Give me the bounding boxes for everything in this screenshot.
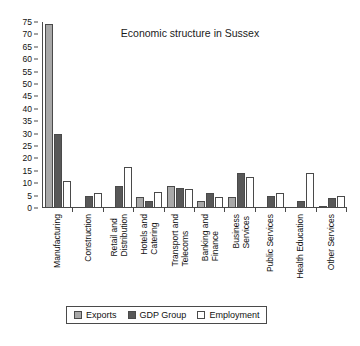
- legend-item-exports: Exports: [74, 310, 117, 320]
- x-axis-label-line1: Manufacturing: [52, 214, 62, 268]
- bar-employment: [215, 197, 223, 208]
- bar-gdp: [176, 188, 184, 208]
- bar-group: [165, 22, 195, 208]
- y-axis-tick-label: 70: [23, 30, 32, 39]
- bar-group: [225, 22, 255, 208]
- x-axis-label-cell: Construction: [73, 214, 103, 300]
- x-axis-label-cell: Public Services: [256, 214, 286, 300]
- x-axis-label-line1: Business: [230, 214, 240, 249]
- y-axis-tick-mark: [34, 170, 38, 171]
- y-axis-tick-mark: [34, 108, 38, 109]
- x-axis-category-label: Manufacturing: [53, 214, 63, 268]
- y-axis-tick-mark: [34, 146, 38, 147]
- x-axis-label-line1: Transport and: [169, 214, 179, 267]
- x-axis-label-line2: Catering: [149, 214, 159, 255]
- x-axis-label-cell: Hotels andCatering: [134, 214, 164, 300]
- y-axis-tick-mark: [34, 22, 38, 23]
- legend-swatch-exports: [74, 311, 82, 319]
- chart-legend: ExportsGDP GroupEmployment: [66, 306, 267, 324]
- y-axis-tick-mark: [34, 59, 38, 60]
- y-axis-tick-label: 20: [23, 154, 32, 163]
- y-axis-tick-mark: [34, 158, 38, 159]
- x-axis-label-cell: Banking andFinance: [195, 214, 225, 300]
- x-axis-category-label: Public Services: [266, 214, 276, 272]
- x-axis-category-label: Banking andFinance: [201, 214, 220, 261]
- y-axis-tick-label: 75: [23, 18, 32, 27]
- x-axis-category-label: Transport andTelecoms: [170, 214, 189, 267]
- x-axis-label-line2: Telecoms: [180, 214, 190, 267]
- bar-employment: [276, 193, 284, 208]
- y-axis-tick-mark: [34, 121, 38, 122]
- bar-group: [195, 22, 225, 208]
- x-axis-category-label: Construction: [84, 214, 94, 262]
- y-axis-tick-label: 30: [23, 129, 32, 138]
- y-axis-tick-label: 10: [23, 179, 32, 188]
- y-axis-tick-label: 5: [27, 191, 32, 200]
- bar-gdp: [115, 186, 123, 208]
- y-axis-tick-label: 60: [23, 55, 32, 64]
- y-axis: 051015202530354045505560657075: [0, 22, 38, 208]
- x-axis-label-line1: Public Services: [265, 214, 275, 272]
- bar-group: [134, 22, 164, 208]
- x-axis-category-label: Hotels andCatering: [140, 214, 159, 255]
- y-axis-tick-mark: [34, 46, 38, 47]
- x-axis-tick-mark: [104, 208, 134, 213]
- x-axis-label-cell: Manufacturing: [43, 214, 73, 300]
- bar-group: [286, 22, 316, 208]
- bar-exports: [45, 24, 53, 208]
- y-axis-tick-label: 25: [23, 142, 32, 151]
- bar-group: [256, 22, 286, 208]
- x-axis-tick-mark: [165, 208, 195, 213]
- bar-employment: [246, 177, 254, 208]
- y-axis-tick-mark: [34, 84, 38, 85]
- y-axis-tick-label: 35: [23, 117, 32, 126]
- y-axis-tick-label: 50: [23, 80, 32, 89]
- x-axis-category-label: Health Education: [297, 214, 307, 279]
- y-axis-tick-mark: [34, 208, 38, 209]
- bar-employment: [306, 173, 314, 208]
- y-axis-tick-label: 0: [27, 204, 32, 213]
- y-axis-tick-mark: [34, 133, 38, 134]
- x-axis-label-line2: Distribution: [119, 214, 129, 257]
- x-axis-label-cell: Other Services: [317, 214, 347, 300]
- legend-swatch-employment: [197, 311, 205, 319]
- legend-label: Exports: [86, 310, 117, 320]
- x-axis-labels: ManufacturingConstructionRetail andDistr…: [43, 214, 347, 300]
- bar-gdp: [267, 196, 275, 208]
- bar-gdp: [85, 196, 93, 208]
- bar-employment: [124, 167, 132, 208]
- x-axis-label-line2: Finance: [210, 214, 220, 261]
- bar-chart: Economic structure in Sussex 05101520253…: [0, 0, 360, 346]
- x-axis-label-line1: Hotels and: [139, 214, 149, 255]
- x-axis-category-label: BusinessServices: [231, 214, 250, 249]
- x-axis-label-line2: Services: [241, 214, 251, 249]
- bar-gdp: [237, 173, 245, 208]
- y-axis-tick-label: 65: [23, 43, 32, 52]
- x-axis-ticks: [43, 208, 347, 213]
- x-axis-tick-mark: [195, 208, 225, 213]
- y-axis-tick-mark: [34, 96, 38, 97]
- bar-exports: [136, 197, 144, 208]
- x-axis-tick-mark: [134, 208, 164, 213]
- bar-employment: [154, 192, 162, 208]
- bar-exports: [167, 186, 175, 208]
- bar-groups: [43, 22, 347, 208]
- x-axis-label-cell: Health Education: [286, 214, 316, 300]
- y-axis-tick-mark: [34, 195, 38, 196]
- y-axis-tick-mark: [34, 34, 38, 35]
- x-axis-label-line1: Retail and: [109, 218, 119, 256]
- y-axis-tick-label: 40: [23, 105, 32, 114]
- x-axis-tick-mark: [225, 208, 255, 213]
- x-axis-label-line1: Health Education: [296, 214, 306, 279]
- x-axis-category-label: Other Services: [327, 214, 337, 270]
- bar-exports: [197, 201, 205, 208]
- legend-swatch-gdp: [128, 311, 136, 319]
- x-axis-label-line1: Other Services: [326, 214, 336, 270]
- y-axis-tick-mark: [34, 183, 38, 184]
- bar-gdp: [297, 201, 305, 208]
- x-axis-tick-mark: [73, 208, 103, 213]
- x-axis-tick-mark: [317, 208, 347, 213]
- x-axis-label-cell: BusinessServices: [225, 214, 255, 300]
- x-axis-category-label: Retail andDistribution: [110, 214, 129, 257]
- y-axis-tick-label: 15: [23, 167, 32, 176]
